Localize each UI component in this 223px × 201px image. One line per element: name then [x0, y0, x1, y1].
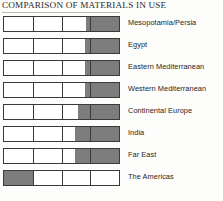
bar-gridline [62, 83, 63, 97]
bar-label: Eastern Mediterranean [128, 62, 204, 71]
chart-figure: COMPARISON OF MATERIALS IN USE Mesopotam… [0, 0, 223, 201]
bar-gridline [62, 171, 63, 185]
bar-fill [4, 171, 34, 185]
bar-gridline [33, 105, 34, 119]
bar-gridline [90, 17, 91, 31]
chart-row: Far East [0, 146, 223, 168]
chart-row: Mesopotamia/Persia [0, 14, 223, 36]
chart-row: The Americas [0, 168, 223, 190]
bar-gridline [62, 105, 63, 119]
bar-track [3, 60, 120, 76]
bar-gridline [33, 171, 34, 185]
bar-fill [75, 149, 119, 163]
bar-label: India [128, 128, 144, 137]
bar-gridline [90, 83, 91, 97]
title-divider [2, 12, 120, 13]
bar-gridline [62, 61, 63, 75]
bar-fill [78, 105, 119, 119]
bar-gridline [33, 17, 34, 31]
bar-gridline [62, 39, 63, 53]
bar-gridline [90, 105, 91, 119]
bar-track [3, 104, 120, 120]
bar-track [3, 126, 120, 142]
bar-gridline [33, 83, 34, 97]
bar-track [3, 148, 120, 164]
bar-gridline [62, 17, 63, 31]
bar-gridline [33, 61, 34, 75]
bar-label: Continental Europe [128, 106, 192, 115]
bar-gridline [62, 149, 63, 163]
bar-track [3, 170, 120, 186]
chart-row: India [0, 124, 223, 146]
bar-track [3, 38, 120, 54]
bar-label: The Americas [128, 172, 174, 181]
chart-rows: Mesopotamia/PersiaEgyptEastern Mediterra… [0, 14, 223, 190]
bar-fill [75, 127, 119, 141]
chart-row: Continental Europe [0, 102, 223, 124]
bar-gridline [90, 61, 91, 75]
bar-gridline [90, 127, 91, 141]
bar-gridline [90, 171, 91, 185]
bar-gridline [62, 127, 63, 141]
bar-label: Far East [128, 150, 156, 159]
chart-title: COMPARISON OF MATERIALS IN USE [2, 0, 182, 11]
bar-gridline [33, 39, 34, 53]
bar-track [3, 82, 120, 98]
bar-label: Mesopotamia/Persia [128, 18, 196, 27]
bar-gridline [33, 149, 34, 163]
bar-track [3, 16, 120, 32]
chart-row: Eastern Mediterranean [0, 58, 223, 80]
bar-gridline [90, 39, 91, 53]
bar-label: Egypt [128, 40, 147, 49]
chart-row: Egypt [0, 36, 223, 58]
chart-row: Western Mediterranean [0, 80, 223, 102]
bar-gridline [33, 127, 34, 141]
bar-gridline [90, 149, 91, 163]
bar-label: Western Mediterranean [128, 84, 206, 93]
